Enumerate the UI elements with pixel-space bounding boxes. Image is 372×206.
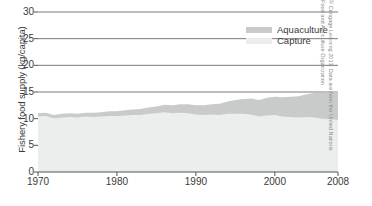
legend-swatch-aquaculture (246, 27, 272, 33)
x-tick-label-1980: 1980 (106, 176, 128, 187)
credit-line-1: © Cengage Learning 2013. Data are from t… (327, 0, 335, 170)
area-series-group (38, 91, 338, 172)
x-tick-label-1990: 1990 (185, 176, 207, 187)
x-tick-label-2000: 2000 (264, 176, 286, 187)
area-capture (38, 112, 338, 172)
x-tick-label-1970: 1970 (27, 176, 49, 187)
x-tick-label-2008: 2008 (327, 176, 349, 187)
legend-swatch-capture (246, 38, 272, 44)
fishery-food-supply-chart: Fishery food supply (kg/capita) 05101520… (0, 0, 372, 206)
copyright-credit: © Cengage Learning 2013. Data are from t… (300, 0, 334, 170)
credit-line-2: Food and Agriculture Organization (319, 0, 327, 170)
